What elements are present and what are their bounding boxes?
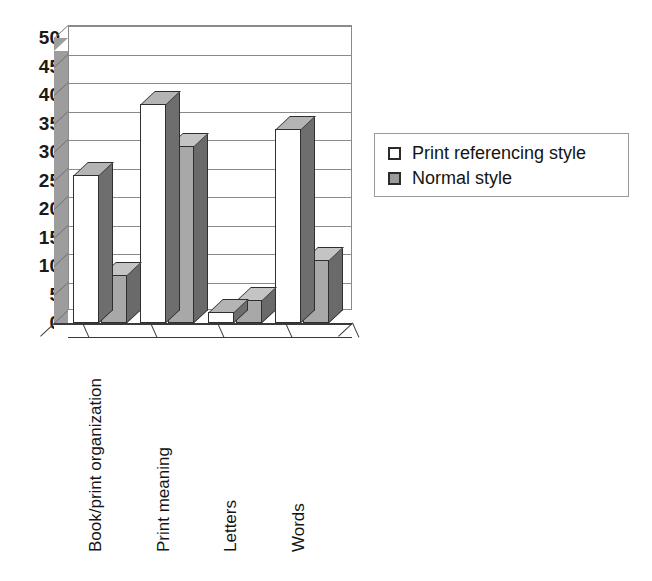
- legend-item-print-referencing-style: Print referencing style: [388, 143, 586, 164]
- chart-floor-front-edge: [68, 337, 352, 338]
- bar-front-face: [208, 312, 234, 323]
- legend-item-normal-style: Normal style: [388, 168, 512, 189]
- gridline: [69, 26, 351, 27]
- legend-label: Normal style: [412, 168, 512, 189]
- side-wall-gridline: [54, 167, 68, 181]
- bar-print-referencing-style: [275, 129, 301, 323]
- bar-front-face: [73, 175, 99, 323]
- side-wall-gridline: [54, 253, 68, 267]
- bar-print-referencing-style: [140, 104, 166, 323]
- side-wall-gridline: [54, 281, 68, 295]
- bar-front-face: [140, 104, 166, 323]
- bar-print-referencing-style: [208, 312, 234, 323]
- legend-label: Print referencing style: [412, 143, 586, 164]
- x-axis-category-label: Letters: [221, 500, 241, 552]
- side-wall-gridline: [54, 110, 68, 124]
- side-wall-gridline: [54, 196, 68, 210]
- bar-print-referencing-style: [73, 175, 99, 323]
- bar-side-face: [99, 162, 113, 323]
- x-axis-tick-mark: [352, 323, 359, 338]
- legend-swatch-icon: [388, 172, 401, 185]
- gridline: [69, 112, 351, 113]
- bar-chart: 05101520253035404550 Book/print organiza…: [0, 0, 652, 581]
- gridline: [69, 83, 351, 84]
- side-wall-gridline: [54, 139, 68, 153]
- legend-swatch-icon: [388, 147, 401, 160]
- bar-side-face: [166, 90, 180, 322]
- side-wall-gridline: [54, 310, 68, 324]
- gridline: [69, 55, 351, 56]
- bar-side-face: [194, 133, 208, 323]
- x-axis-category-label: Words: [289, 503, 309, 552]
- side-wall-gridline: [54, 82, 68, 96]
- bar-side-face: [301, 116, 315, 323]
- side-wall-gridline: [54, 224, 68, 238]
- chart-side-wall: [54, 38, 68, 323]
- chart-legend: Print referencing style Normal style: [374, 133, 629, 197]
- side-wall-gridline: [54, 53, 68, 67]
- x-axis-category-label: Print meaning: [154, 447, 174, 552]
- chart-floor: [54, 323, 352, 337]
- bar-front-face: [275, 129, 301, 323]
- x-axis-category-label: Book/print organization: [86, 378, 106, 552]
